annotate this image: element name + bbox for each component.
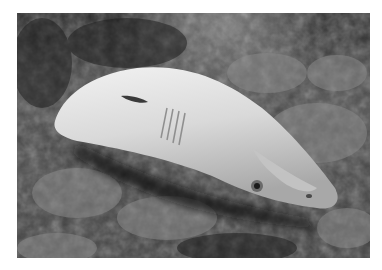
- photograph: [17, 13, 370, 258]
- shark-on-coral-image: [17, 13, 370, 258]
